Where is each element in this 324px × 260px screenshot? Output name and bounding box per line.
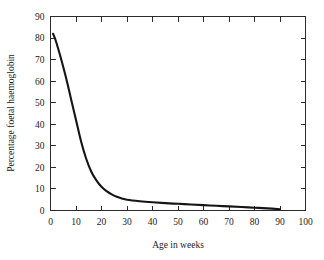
x-tick-label: 80 bbox=[250, 217, 260, 227]
y-tick-labels: 0102030405060708090 bbox=[35, 12, 45, 216]
foetal-haemoglobin-line-chart: 0102030405060708090100 01020304050607080… bbox=[0, 0, 324, 260]
x-axis-title: Age in weeks bbox=[152, 240, 204, 250]
x-tick-label: 0 bbox=[48, 217, 53, 227]
y-tick-label: 30 bbox=[35, 141, 45, 151]
axis-ticks bbox=[51, 17, 306, 211]
plot-frame bbox=[51, 17, 306, 211]
x-tick-label: 60 bbox=[199, 217, 209, 227]
y-tick-label: 60 bbox=[35, 77, 45, 87]
chart-figure: 0102030405060708090100 01020304050607080… bbox=[0, 0, 324, 260]
y-tick-label: 20 bbox=[35, 163, 45, 173]
y-tick-label: 10 bbox=[35, 184, 45, 194]
y-tick-label: 50 bbox=[35, 98, 45, 108]
y-tick-label: 90 bbox=[35, 12, 45, 22]
y-tick-label: 0 bbox=[40, 206, 45, 216]
y-tick-label: 80 bbox=[35, 33, 45, 43]
x-tick-label: 40 bbox=[148, 217, 158, 227]
x-tick-label: 90 bbox=[275, 217, 285, 227]
data-series-curve bbox=[53, 34, 280, 209]
x-tick-label: 50 bbox=[173, 217, 183, 227]
x-tick-labels: 0102030405060708090100 bbox=[48, 217, 313, 227]
x-tick-label: 10 bbox=[71, 217, 81, 227]
x-tick-label: 30 bbox=[122, 217, 132, 227]
x-tick-label: 20 bbox=[97, 217, 107, 227]
x-tick-label: 100 bbox=[298, 217, 313, 227]
x-tick-label: 70 bbox=[224, 217, 234, 227]
y-tick-label: 70 bbox=[35, 55, 45, 65]
y-axis-title: Percentage foetal haemoglobin bbox=[6, 54, 16, 172]
y-tick-label: 40 bbox=[35, 120, 45, 130]
